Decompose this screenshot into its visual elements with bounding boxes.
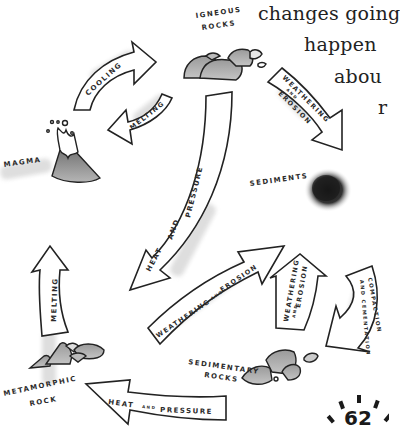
- cooling-arrow: COOLING: [74, 42, 156, 110]
- magma-label: MAGMA: [3, 156, 42, 169]
- weathering-erosion-arrow-right: WEATHERING AND EROSION: [270, 254, 326, 330]
- melting-arrow-left: MELTING: [32, 246, 68, 336]
- melting-arrow-top: MELTING: [108, 94, 172, 144]
- heat-pressure-arrow-bottom: HEAT AND PRESSURE: [86, 380, 226, 424]
- metamorphic-rock-illustration: [30, 343, 104, 368]
- metamorphic-label-line-1: METAMORPHIC: [3, 375, 78, 398]
- sedimentary-label-line-2: ROCKS: [204, 371, 239, 384]
- weathering-erosion-arrow-top: WEATHERING AND EROSION: [268, 68, 342, 150]
- igneous-label-line-1: IGNEOUS: [195, 6, 242, 20]
- sediments-illustration: [304, 168, 352, 212]
- sediments-label: SEDIMENTS: [249, 172, 309, 188]
- melting-left-label: MELTING: [50, 277, 60, 322]
- igneous-label-line-2: ROCKS: [201, 19, 236, 32]
- page-number: 62: [344, 406, 372, 426]
- igneous-rocks-illustration: [184, 49, 266, 80]
- compaction-cementation-arrow: COMPACTION AND CEMENTATION: [326, 266, 383, 356]
- volcano-illustration: [47, 121, 100, 183]
- metamorphic-label-line-2: ROCK: [29, 395, 58, 408]
- melting-top-label: MELTING: [128, 99, 166, 131]
